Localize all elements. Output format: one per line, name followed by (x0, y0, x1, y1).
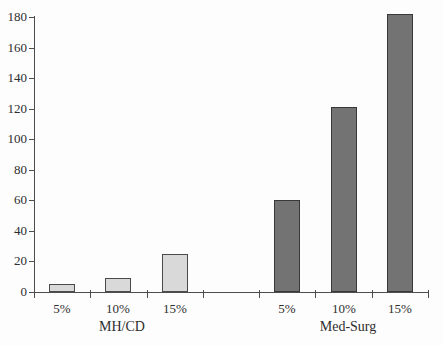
y-tick-label: 120 (0, 101, 27, 117)
y-tick-label: 20 (0, 253, 27, 269)
y-tick (29, 139, 34, 140)
y-tick-label: 0 (0, 284, 27, 300)
y-tick (29, 48, 34, 49)
x-tick-label: 10% (322, 301, 366, 316)
bar-med-surg-5pct (274, 200, 300, 292)
y-tick-label: 80 (0, 162, 27, 178)
group-label-mh-cd: MH/CD (77, 319, 167, 335)
y-axis (34, 16, 35, 292)
y-tick (29, 17, 34, 18)
x-tick-label: 5% (40, 301, 84, 316)
x-tick (315, 290, 316, 298)
bar-chart: 0204060801001201401601805%10%15%MH/CD5%1… (0, 0, 443, 345)
bar-med-surg-10pct (331, 107, 357, 292)
y-tick (29, 231, 34, 232)
y-tick-label: 100 (0, 131, 27, 147)
y-tick (29, 200, 34, 201)
group-label-med-surg: Med-Surg (303, 319, 393, 335)
x-tick-label: 15% (153, 301, 197, 316)
y-tick (29, 261, 34, 262)
y-tick-label: 160 (0, 40, 27, 56)
y-tick (29, 170, 34, 171)
bar-mh-cd-15pct (162, 254, 188, 292)
y-tick-label: 140 (0, 70, 27, 86)
x-tick (372, 290, 373, 298)
x-tick (34, 290, 35, 298)
y-tick (29, 109, 34, 110)
x-tick (428, 290, 429, 298)
x-tick (203, 290, 204, 298)
x-tick-label: 5% (265, 301, 309, 316)
x-axis (34, 292, 429, 293)
y-tick-label: 60 (0, 192, 27, 208)
bar-mh-cd-5pct (49, 284, 75, 292)
y-tick-label: 40 (0, 223, 27, 239)
x-tick (90, 290, 91, 298)
y-tick-label: 180 (0, 9, 27, 25)
x-tick-label: 15% (378, 301, 422, 316)
bar-mh-cd-10pct (105, 278, 131, 292)
x-tick (259, 290, 260, 298)
bar-med-surg-15pct (387, 14, 413, 292)
x-tick (147, 290, 148, 298)
x-tick-label: 10% (96, 301, 140, 316)
y-tick (29, 78, 34, 79)
